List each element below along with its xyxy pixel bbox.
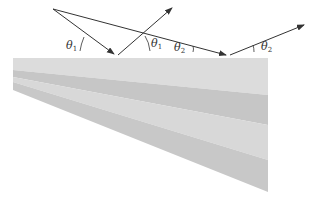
reflection-diagram: θ1 θ1 θ2 θ2 (0, 0, 319, 202)
arc-theta1-incident (80, 37, 84, 51)
label-theta1-reflected: θ1 (151, 37, 162, 51)
layered-wedge (13, 58, 268, 192)
angle-arcs (80, 36, 254, 52)
ray-2-incident (53, 9, 226, 55)
arc-theta2-reflected (253, 45, 254, 52)
ray-1-reflected (118, 8, 172, 55)
label-theta2-incident: θ2 (174, 41, 185, 55)
label-theta2-reflected: θ2 (261, 40, 272, 54)
arc-theta1-reflected (145, 36, 150, 51)
arc-theta2-incident (193, 46, 194, 52)
label-theta1-incident: θ1 (66, 39, 77, 53)
ray-1-incident (53, 9, 114, 54)
